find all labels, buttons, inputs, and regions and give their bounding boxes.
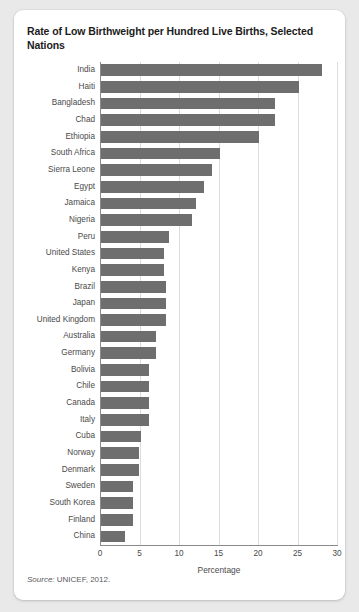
x-axis-line <box>100 545 338 546</box>
bar-chart: IndiaHaitiBangladeshChadEthiopiaSouth Af… <box>14 57 345 552</box>
bar-row: Jamaica <box>100 195 337 212</box>
bar <box>101 264 164 276</box>
bar <box>101 364 149 376</box>
x-axis-title: Percentage <box>100 565 338 575</box>
category-label: Bangladesh <box>52 95 95 112</box>
category-label: Bolivia <box>71 362 95 379</box>
source-note: Source: UNICEF, 2012. <box>27 575 110 584</box>
bar <box>101 497 133 509</box>
category-label: Norway <box>67 445 95 462</box>
bar <box>101 431 141 443</box>
plot-region: IndiaHaitiBangladeshChadEthiopiaSouth Af… <box>100 62 337 545</box>
category-label: Sierra Leone <box>48 162 95 179</box>
figure-card: Rate of Low Birthweight per Hundred Live… <box>14 10 345 600</box>
bar <box>101 347 156 359</box>
bar <box>101 148 220 160</box>
bar <box>101 231 169 243</box>
bar-row: United Kingdom <box>100 312 337 329</box>
bar <box>101 248 164 260</box>
bar <box>101 381 149 393</box>
bar <box>101 214 192 226</box>
category-label: United States <box>46 245 95 262</box>
bar-row: Australia <box>100 328 337 345</box>
category-label: Peru <box>78 229 95 246</box>
bar <box>101 331 156 343</box>
bar <box>101 164 212 176</box>
bar-row: United States <box>100 245 337 262</box>
category-label: Nigeria <box>69 212 95 229</box>
x-tick-label: 20 <box>243 549 273 558</box>
bar <box>101 81 299 93</box>
bar <box>101 414 149 426</box>
bar <box>101 531 125 543</box>
category-label: Canada <box>66 395 95 412</box>
bar-row: Denmark <box>100 462 337 479</box>
x-tick-label: 10 <box>164 549 194 558</box>
bar-row: South Korea <box>100 495 337 512</box>
bar-row: Finland <box>100 512 337 529</box>
category-label: South Africa <box>51 145 95 162</box>
bar-row: China <box>100 528 337 545</box>
bar <box>101 64 322 76</box>
bar <box>101 314 166 326</box>
category-label: South Korea <box>49 495 95 512</box>
bar <box>101 514 133 526</box>
bar-row: Peru <box>100 229 337 246</box>
bar-row: Brazil <box>100 279 337 296</box>
bar <box>101 181 204 193</box>
x-tick-label: 30 <box>322 549 345 558</box>
category-label: Denmark <box>62 462 95 479</box>
bar <box>101 98 275 110</box>
bar <box>101 114 275 126</box>
category-label: Sweden <box>65 478 95 495</box>
category-label: China <box>74 528 95 545</box>
bar-row: Nigeria <box>100 212 337 229</box>
x-tick-label: 5 <box>125 549 155 558</box>
bar-row: India <box>100 62 337 79</box>
category-label: Chile <box>76 378 95 395</box>
category-label: Brazil <box>75 279 95 296</box>
bar <box>101 397 149 409</box>
x-tick-label: 25 <box>283 549 313 558</box>
category-label: Jamaica <box>65 195 96 212</box>
bar-row: Cuba <box>100 428 337 445</box>
bar-row: Germany <box>100 345 337 362</box>
category-label: Germany <box>61 345 95 362</box>
bar-row: Canada <box>100 395 337 412</box>
bar <box>101 481 133 493</box>
category-label: Ethiopia <box>65 129 95 146</box>
bar-row: Chile <box>100 378 337 395</box>
category-label: Haiti <box>79 79 95 96</box>
category-label: Kenya <box>72 262 95 279</box>
category-label: Chad <box>75 112 95 129</box>
bar <box>101 281 166 293</box>
bar-row: Kenya <box>100 262 337 279</box>
bar-row: Japan <box>100 295 337 312</box>
bar-row: Sierra Leone <box>100 162 337 179</box>
bar-row: Bangladesh <box>100 95 337 112</box>
bar <box>101 198 196 210</box>
category-label: Japan <box>73 295 95 312</box>
bar-row: Egypt <box>100 179 337 196</box>
x-tick-label: 15 <box>204 549 234 558</box>
bar-row: Norway <box>100 445 337 462</box>
source-value: UNICEF, 2012. <box>55 575 111 584</box>
source-label: Source: <box>27 575 55 584</box>
category-label: Cuba <box>75 428 95 445</box>
bar-row: Haiti <box>100 79 337 96</box>
gridline <box>337 62 338 545</box>
bar-row: Sweden <box>100 478 337 495</box>
bar-row: South Africa <box>100 145 337 162</box>
category-label: Italy <box>80 412 95 429</box>
category-label: United Kingdom <box>37 312 95 329</box>
bar <box>101 131 259 143</box>
bar <box>101 464 139 476</box>
bar-row: Ethiopia <box>100 129 337 146</box>
page-title: Rate of Low Birthweight per Hundred Live… <box>27 24 327 52</box>
category-label: Australia <box>63 328 95 345</box>
bar-row: Chad <box>100 112 337 129</box>
bar <box>101 447 139 459</box>
category-label: Egypt <box>74 179 95 196</box>
category-label: India <box>77 62 95 79</box>
x-tick-label: 0 <box>85 549 115 558</box>
